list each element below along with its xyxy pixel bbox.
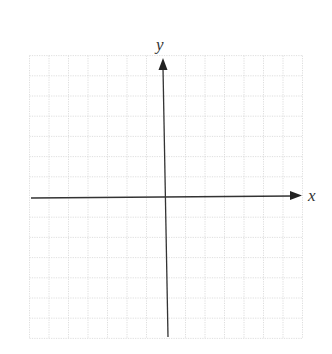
y-axis-label: y <box>154 35 164 54</box>
coordinate-plane: x y <box>0 0 332 354</box>
x-axis-arrow-icon <box>290 191 302 200</box>
y-axis <box>163 68 168 337</box>
y-axis-arrow-icon <box>159 58 168 70</box>
x-axis-label: x <box>307 186 316 205</box>
x-axis <box>31 196 293 198</box>
